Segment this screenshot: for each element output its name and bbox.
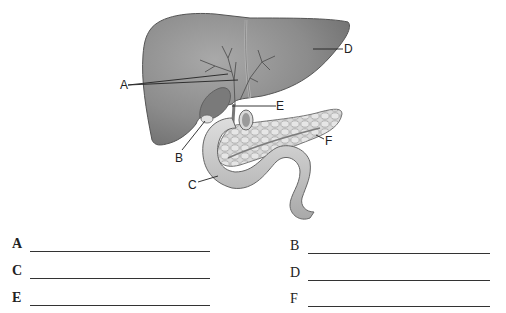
callout-a: A — [120, 78, 128, 92]
callout-e: E — [276, 99, 284, 113]
callout-b: B — [175, 151, 183, 165]
callout-d: D — [344, 42, 353, 56]
anatomy-figure: A B C D E F — [0, 0, 506, 230]
callout-f: F — [325, 134, 332, 148]
answer-label-b: B — [290, 237, 299, 255]
answer-row-d: D — [290, 264, 490, 282]
answer-label-e: E — [12, 289, 21, 307]
answer-label-d: D — [290, 264, 300, 282]
answer-input-c[interactable] — [30, 262, 210, 279]
callout-c: C — [188, 178, 197, 192]
answer-row-c: C — [12, 262, 212, 280]
answer-row-b: B — [290, 237, 490, 255]
answer-row-f: F — [290, 290, 490, 308]
answer-input-b[interactable] — [308, 237, 490, 254]
answer-input-e[interactable] — [30, 289, 210, 306]
answer-input-a[interactable] — [30, 235, 210, 252]
answer-input-f[interactable] — [308, 290, 490, 307]
answer-row-e: E — [12, 289, 212, 307]
answer-label-f: F — [290, 290, 298, 308]
answer-input-d[interactable] — [308, 264, 490, 281]
answer-row-a: A — [12, 235, 212, 253]
answer-label-c: C — [12, 262, 22, 280]
answer-label-a: A — [12, 235, 22, 253]
